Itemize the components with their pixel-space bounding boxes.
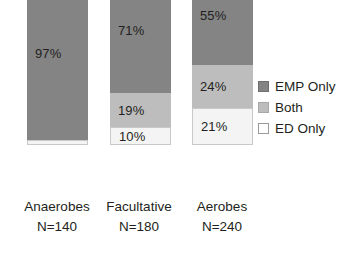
legend-label: ED Only bbox=[275, 122, 325, 136]
bar-segment-label: 19% bbox=[110, 104, 144, 117]
bar-segment-label: 21% bbox=[193, 120, 227, 133]
legend-item-ed-only[interactable]: ED Only bbox=[258, 118, 346, 139]
stacked-bar-chart: 97% 71% 19% 10% 55% bbox=[0, 0, 347, 261]
bar-segment-both[interactable]: 24% bbox=[192, 65, 253, 108]
bar-facultative[interactable]: 71% 19% 10% bbox=[110, 0, 171, 145]
bar-anaerobes[interactable]: 97% bbox=[27, 0, 88, 145]
bar-segment-emp-only[interactable]: 71% bbox=[110, 0, 171, 93]
bar-segment-label: 24% bbox=[192, 80, 226, 93]
category-name: Aerobes bbox=[167, 197, 277, 217]
legend-label: EMP Only bbox=[275, 80, 336, 94]
legend-item-emp-only[interactable]: EMP Only bbox=[258, 76, 346, 97]
legend-swatch-icon bbox=[258, 123, 269, 134]
bar-aerobes[interactable]: 55% 24% 21% bbox=[192, 0, 253, 145]
category-label-aerobes: Aerobes N=240 bbox=[167, 197, 277, 237]
bar-segment-emp-only[interactable]: 97% bbox=[27, 0, 88, 140]
bar-segment-label: 97% bbox=[27, 47, 61, 60]
legend-swatch-icon bbox=[258, 81, 269, 92]
legend-swatch-icon bbox=[258, 102, 269, 113]
category-axis-labels: Anaerobes N=140 Facultative N=180 Aerobe… bbox=[0, 197, 347, 241]
chart-legend: EMP Only Both ED Only bbox=[258, 76, 346, 139]
bar-segment-emp-only[interactable]: 55% bbox=[192, 0, 253, 65]
bar-segment-label: 55% bbox=[192, 9, 226, 22]
bar-segment-label: 71% bbox=[110, 24, 144, 37]
category-count: N=240 bbox=[167, 217, 277, 237]
bar-segment-ed-only[interactable]: 10% bbox=[110, 127, 171, 145]
bar-segment-ed-only[interactable]: 21% bbox=[192, 108, 253, 145]
bar-segment-ed-only[interactable] bbox=[27, 140, 88, 145]
plot-area: 97% 71% 19% 10% 55% bbox=[0, 0, 262, 210]
legend-label: Both bbox=[275, 101, 303, 115]
legend-item-both[interactable]: Both bbox=[258, 97, 346, 118]
bar-segment-label: 10% bbox=[111, 130, 145, 143]
bar-segment-both[interactable]: 19% bbox=[110, 93, 171, 127]
